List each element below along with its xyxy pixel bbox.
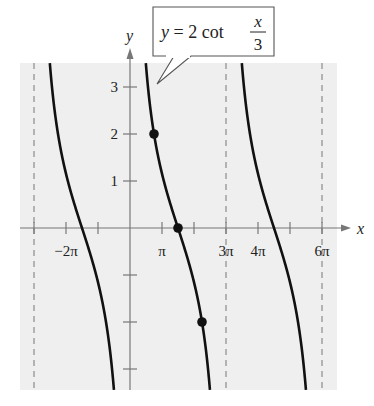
callout-denominator: 3 — [254, 35, 263, 54]
x-tick-label: 4π — [250, 243, 266, 259]
x-tick-label: −2π — [54, 243, 78, 259]
data-point — [173, 223, 183, 233]
data-point — [149, 129, 159, 139]
x-axis-label: x — [356, 220, 364, 237]
callout-numerator: x — [253, 12, 262, 31]
x-tick-label: π — [158, 243, 166, 259]
cotangent-graph: −2ππ3π4π6π321xy y = 2 cotx3 — [0, 0, 374, 406]
y-axis-label: y — [124, 27, 134, 45]
x-tick-label: 6π — [314, 243, 330, 259]
x-axis-arrow-icon — [341, 225, 351, 232]
y-tick-label: 2 — [111, 126, 119, 142]
x-tick-label: 3π — [218, 243, 234, 259]
y-tick-label: 3 — [111, 79, 119, 95]
callout-equation: y = 2 cot — [159, 22, 224, 42]
y-tick-label: 1 — [111, 173, 119, 189]
data-point — [197, 317, 207, 327]
y-axis-arrow-icon — [127, 48, 134, 59]
callout-gap — [166, 54, 190, 58]
